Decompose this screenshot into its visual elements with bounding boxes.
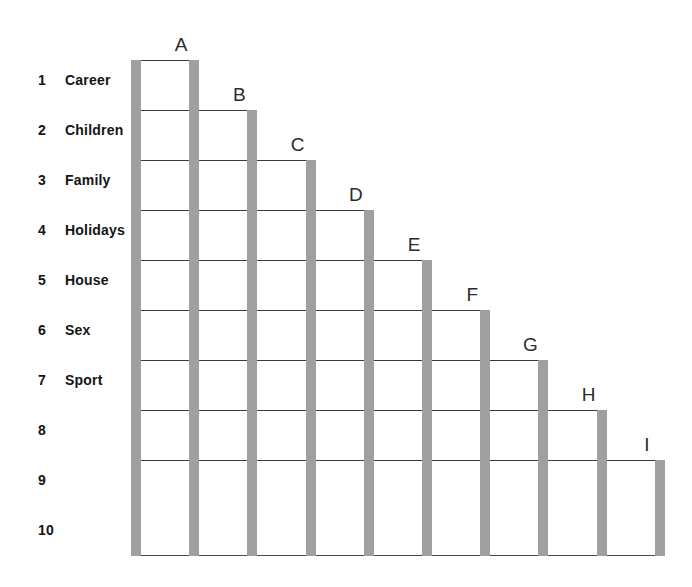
row-number: 9 (38, 470, 62, 490)
vertical-bar-3 (306, 160, 316, 556)
step-letter-B: B (224, 84, 254, 106)
vertical-bar-6 (480, 310, 490, 556)
step-letter-C: C (283, 134, 313, 156)
vertical-bar-0 (131, 60, 141, 556)
step-line-E (131, 260, 432, 261)
step-letter-A: A (166, 34, 196, 56)
row-name: Career (65, 70, 111, 90)
step-letter-D: D (341, 184, 371, 206)
row-number: 6 (38, 320, 62, 340)
vertical-bar-7 (538, 360, 548, 556)
step-line-C (131, 160, 316, 161)
vertical-bar-4 (364, 210, 374, 556)
vertical-bar-8 (597, 410, 607, 556)
row-name: Sport (65, 370, 103, 390)
row-number: 5 (38, 270, 62, 290)
step-letter-G: G (515, 334, 545, 356)
row-number: 4 (38, 220, 62, 240)
vertical-bar-9 (655, 460, 665, 556)
row-number: 7 (38, 370, 62, 390)
step-letter-I: I (632, 434, 662, 456)
step-letter-H: H (574, 384, 604, 406)
vertical-bar-5 (422, 260, 432, 556)
step-letter-E: E (399, 234, 429, 256)
step-line-I (131, 460, 665, 461)
baseline (131, 555, 665, 556)
row-number: 8 (38, 420, 62, 440)
row-number: 3 (38, 170, 62, 190)
vertical-bar-2 (247, 110, 257, 556)
staircase-chart: 1Career2Children3Family4Holidays5House6S… (0, 0, 692, 587)
row-name: Children (65, 120, 123, 140)
row-name: Sex (65, 320, 91, 340)
row-number: 1 (38, 70, 62, 90)
row-name: Holidays (65, 220, 125, 240)
row-number: 10 (38, 520, 62, 540)
step-letter-F: F (457, 284, 487, 306)
row-name: House (65, 270, 109, 290)
row-number: 2 (38, 120, 62, 140)
row-name: Family (65, 170, 111, 190)
vertical-bar-1 (189, 60, 199, 556)
